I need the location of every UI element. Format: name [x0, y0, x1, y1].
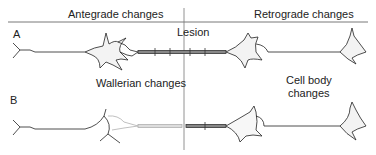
panel-a-label: A [13, 28, 20, 40]
faded-axon-b [108, 116, 182, 130]
axon-b [186, 122, 226, 130]
neuron-b-left [13, 109, 120, 143]
lesion-label: Lesion [177, 26, 209, 38]
retrograde-changes-label: Retrograde changes [254, 8, 354, 20]
neuron-b-right [226, 102, 366, 142]
panel-b-label: B [10, 94, 17, 106]
cell-body-changes-label-1: Cell body [286, 74, 332, 86]
neuron-a-right [226, 28, 366, 68]
antegrade-changes-label: Antegrade changes [68, 8, 163, 20]
cell-body-changes-label-2: changes [288, 87, 330, 99]
axon-a [138, 48, 226, 56]
neuron-a-left [13, 33, 138, 70]
wallerian-changes-label: Wallerian changes [96, 77, 186, 89]
